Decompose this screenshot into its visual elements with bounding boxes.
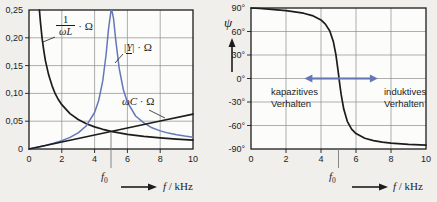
plot-area-left <box>29 10 193 149</box>
fraction-numerator: 1 <box>63 14 68 25</box>
unit-ohm: · Ω <box>78 20 93 32</box>
x-tick-label: 6 <box>353 154 358 164</box>
subscript-0: 0 <box>104 176 108 185</box>
x-tick-label: 10 <box>421 154 431 164</box>
resonance-figure: 024681000,050,100,150,200,25024681090°60… <box>0 0 437 202</box>
inductive-line2: Verhalten <box>384 98 426 110</box>
y-tick-label: 0,25 <box>5 5 23 15</box>
y-tick-label: 0,10 <box>5 88 23 98</box>
capacitive-line1: kapazitives <box>271 86 318 98</box>
y-tick-label: 0° <box>236 74 245 84</box>
y-tick-label: 0,05 <box>5 116 23 126</box>
unit-ohm: · Ω <box>137 41 152 53</box>
abs-bar-close: | <box>132 41 134 53</box>
symbol-f: f <box>163 180 166 192</box>
label-inductive-susceptance: 1 ωL · Ω <box>56 14 93 37</box>
label-f0-left: f0 <box>101 170 108 185</box>
y-tick-label: -90° <box>228 144 245 154</box>
unit-khz: / kHz <box>169 180 193 192</box>
label-capacitive-susceptance: ωC · Ω <box>122 95 154 107</box>
yaxis-label-psi: ψ <box>224 15 232 31</box>
x-tick-label: 6 <box>125 154 130 164</box>
y-tick-label: 90° <box>231 3 245 13</box>
x-tick-label: 8 <box>388 154 393 164</box>
x-tick-label: 4 <box>92 154 97 164</box>
y-tick-label: 0 <box>18 144 23 154</box>
y-tick-label: -60° <box>228 121 245 131</box>
x-tick-label: 0 <box>248 154 253 164</box>
y-tick-label: 0,15 <box>5 61 23 71</box>
symbol-omega-c: ωC <box>122 95 137 107</box>
subscript-0: 0 <box>332 176 336 185</box>
y-tick-label: -30° <box>228 97 245 107</box>
label-admittance-magnitude: |Y| · Ω <box>124 41 152 53</box>
y-tick-label: 0,20 <box>5 33 23 43</box>
y-tick-label: 30° <box>231 50 245 60</box>
psi-axis-arrow-head <box>229 38 236 47</box>
x-tick-label: 4 <box>318 154 323 164</box>
unit-ohm: · Ω <box>140 95 155 107</box>
label-f0-right: f0 <box>329 170 336 185</box>
x-tick-label: 10 <box>188 154 198 164</box>
xaxis-label-right: f / kHz <box>393 180 423 192</box>
symbol-f: f <box>393 180 396 192</box>
x-tick-label: 2 <box>283 154 288 164</box>
xaxis-arrow-head <box>379 184 388 191</box>
x-tick-label: 2 <box>59 154 64 164</box>
y-tick-label: 60° <box>231 27 245 37</box>
label-capacitive-region: kapazitives Verhalten <box>271 86 318 109</box>
inductive-line1: induktives <box>384 86 426 98</box>
label-inductive-region: induktives Verhalten <box>384 86 426 109</box>
fraction: 1 ωL <box>56 14 75 37</box>
xaxis-label-left: f / kHz <box>163 180 193 192</box>
xaxis-arrow-head <box>148 184 157 191</box>
fraction-denominator: ωL <box>56 25 75 37</box>
x-tick-label: 8 <box>158 154 163 164</box>
capacitive-line2: Verhalten <box>271 98 318 110</box>
unit-khz: / kHz <box>399 180 423 192</box>
x-tick-label: 0 <box>26 154 31 164</box>
